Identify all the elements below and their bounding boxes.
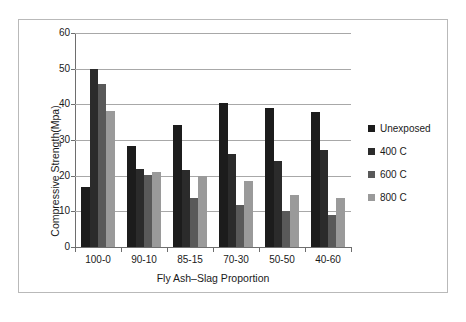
bar-unexposed-50-50[interactable]: [265, 108, 273, 247]
x-axis-tick-labels: 100-090-1085-1570-3050-5040-60: [75, 254, 351, 268]
legend-swatch-icon: [368, 125, 375, 132]
bar-400-c-70-30[interactable]: [228, 154, 236, 247]
legend-label: Unexposed: [380, 123, 431, 134]
bar-400-c-90-10[interactable]: [136, 169, 144, 247]
legend-label: 400 C: [380, 146, 407, 157]
x-axis-tick: [305, 247, 306, 252]
bar-chart: 0102030405060 Compressive Strength(Mpa) …: [0, 0, 466, 322]
bar-unexposed-70-30[interactable]: [219, 103, 227, 247]
x-axis-tick: [259, 247, 260, 252]
y-axis-title: Compressive Strength(Mpa): [49, 86, 61, 256]
x-axis-tick-label: 70-30: [213, 254, 259, 266]
legend-label: 800 C: [380, 192, 407, 203]
bar-group: [121, 33, 167, 247]
legend-label: 600 C: [380, 169, 407, 180]
bar-400-c-40-60[interactable]: [320, 150, 328, 247]
bar-group: [213, 33, 259, 247]
x-axis-tick-label: 40-60: [305, 254, 351, 266]
bar-unexposed-100-0[interactable]: [81, 187, 89, 247]
x-axis-tick: [121, 247, 122, 252]
chart-legend: Unexposed400 C600 C800 C: [368, 117, 444, 209]
legend-item-unexposed[interactable]: Unexposed: [368, 117, 444, 140]
legend-item-600-c[interactable]: 600 C: [368, 163, 444, 186]
bar-800-c-100-0[interactable]: [106, 111, 114, 247]
plot-area: [75, 33, 351, 247]
bar-600-c-40-60[interactable]: [328, 215, 336, 247]
legend-swatch-icon: [368, 148, 375, 155]
bar-unexposed-85-15[interactable]: [173, 125, 181, 247]
x-axis-tick: [167, 247, 168, 252]
bar-unexposed-90-10[interactable]: [127, 146, 135, 247]
bar-800-c-90-10[interactable]: [152, 172, 160, 247]
x-axis-tick-label: 100-0: [75, 254, 121, 266]
bar-group: [305, 33, 351, 247]
bar-600-c-90-10[interactable]: [144, 175, 152, 247]
x-axis-tick: [75, 247, 76, 252]
bar-800-c-40-60[interactable]: [336, 198, 344, 247]
x-axis-tick-label: 85-15: [167, 254, 213, 266]
legend-swatch-icon: [368, 171, 375, 178]
bar-unexposed-40-60[interactable]: [311, 112, 319, 247]
bar-400-c-100-0[interactable]: [90, 69, 98, 247]
x-axis-tick-label: 50-50: [259, 254, 305, 266]
bar-600-c-85-15[interactable]: [190, 198, 198, 247]
legend-item-400-c[interactable]: 400 C: [368, 140, 444, 163]
x-axis-tick: [351, 247, 352, 252]
bar-600-c-100-0[interactable]: [98, 84, 106, 247]
y-axis-tick-label: 60: [30, 28, 70, 38]
bar-400-c-50-50[interactable]: [274, 161, 282, 247]
bar-group: [167, 33, 213, 247]
legend-item-800-c[interactable]: 800 C: [368, 186, 444, 209]
bar-600-c-70-30[interactable]: [236, 205, 244, 247]
x-axis-tick-label: 90-10: [121, 254, 167, 266]
x-axis-tick: [213, 247, 214, 252]
y-axis-title-wrapper: Compressive Strength(Mpa): [26, 55, 44, 225]
legend-swatch-icon: [368, 194, 375, 201]
x-axis-title: Fly Ash–Slag Proportion: [75, 272, 351, 284]
bar-800-c-70-30[interactable]: [244, 181, 252, 247]
bar-400-c-85-15[interactable]: [182, 170, 190, 247]
bar-600-c-50-50[interactable]: [282, 211, 290, 247]
bar-group: [259, 33, 305, 247]
bar-group: [75, 33, 121, 247]
bar-800-c-50-50[interactable]: [290, 195, 298, 247]
bar-800-c-85-15[interactable]: [198, 176, 206, 247]
